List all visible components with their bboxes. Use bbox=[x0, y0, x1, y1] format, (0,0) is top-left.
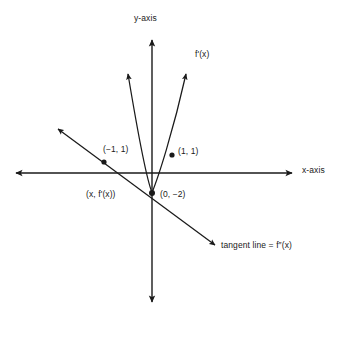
tangent-line-label: tangent line = f″(x) bbox=[221, 241, 292, 250]
point-marker-vertex bbox=[149, 190, 155, 196]
point-marker-right bbox=[169, 152, 174, 157]
y-axis-label: y-axis bbox=[134, 14, 157, 23]
graph-figure: y-axis x-axis f'(x) (−1, 1) (1, 1) (x, f… bbox=[0, 0, 342, 338]
point-label-tangent-point: (x, f'(x)) bbox=[86, 190, 116, 199]
point-label-left: (−1, 1) bbox=[103, 145, 129, 154]
x-axis-label: x-axis bbox=[302, 166, 325, 175]
point-label-right: (1, 1) bbox=[178, 147, 198, 156]
point-label-vertex: (0, −2) bbox=[160, 190, 186, 199]
parabola-curve bbox=[128, 74, 186, 193]
point-marker-left bbox=[101, 159, 106, 164]
curve-label: f'(x) bbox=[195, 50, 209, 59]
coordinate-graph bbox=[0, 0, 342, 338]
